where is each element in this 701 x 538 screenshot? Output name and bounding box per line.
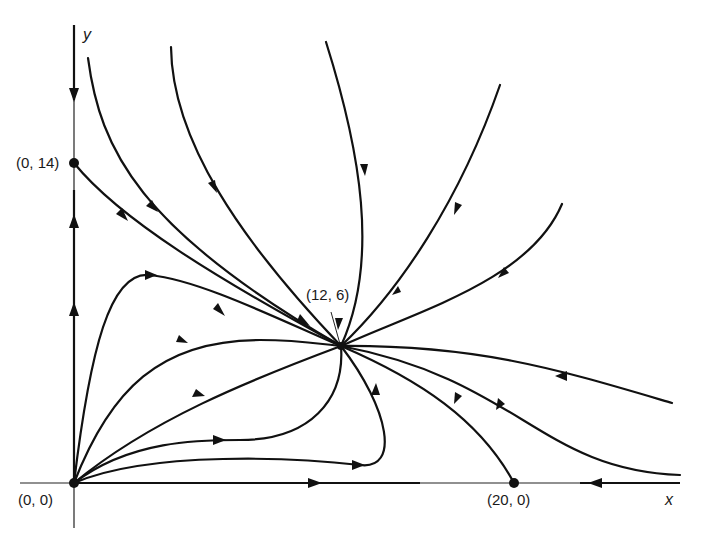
y-axis-label: y [82,26,92,43]
x-axis-label: x [664,491,674,508]
arrow-up-icon [69,214,79,228]
arrow-down-icon [69,88,79,102]
equilibrium-12-6 [337,342,345,350]
equilibrium-20-0 [509,478,519,488]
equilibrium-0-14 [69,158,79,168]
trajectories [74,42,680,483]
arrow-left-icon [588,478,602,488]
label-0-14: (0, 14) [16,154,59,171]
trajectory-arrows [116,164,567,470]
label-origin: (0, 0) [18,491,53,508]
phase-portrait: y x (0, 0) (0, 14) (20, 0) (12, 6) [0,0,701,538]
equilibrium-origin [69,478,79,488]
label-20-0: (20, 0) [487,491,530,508]
arrow-up-icon [69,302,79,316]
label-12-6: (12, 6) [306,286,349,303]
arrow-right-icon [308,478,322,488]
